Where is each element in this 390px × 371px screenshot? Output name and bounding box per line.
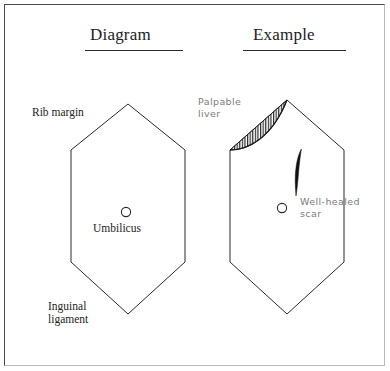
label-palpable-liver-line1: Palpable (198, 96, 241, 108)
label-palpable-liver-line2: liver (198, 108, 241, 120)
label-inguinal-ligament-line1: Inguinal (48, 300, 88, 313)
label-well-healed-scar-line2: scar (300, 208, 360, 220)
umbilicus-marker-diagram (121, 207, 130, 216)
label-well-healed-scar-line1: Well-healed (300, 196, 360, 208)
label-well-healed-scar: Well-healed scar (300, 196, 360, 219)
figure-root: Diagram Example (0, 0, 390, 371)
label-palpable-liver: Palpable liver (198, 96, 241, 119)
label-rib-margin: Rib margin (32, 106, 84, 119)
label-inguinal-ligament-line2: ligament (48, 313, 88, 326)
label-umbilicus: Umbilicus (93, 222, 141, 235)
umbilicus-marker-example (277, 203, 286, 212)
label-inguinal-ligament: Inguinal ligament (48, 300, 88, 326)
